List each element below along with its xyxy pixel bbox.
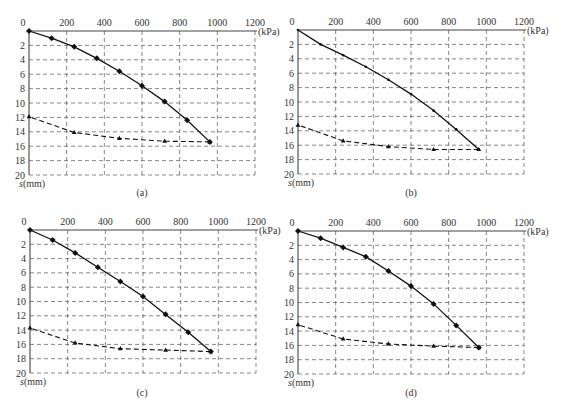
x-tick-label: 800 bbox=[172, 17, 187, 28]
y-tick-label: 10 bbox=[15, 98, 25, 109]
x-axis-unit: (kPa) bbox=[527, 25, 549, 37]
triangle-marker bbox=[27, 114, 32, 118]
y-tick-label: 18 bbox=[16, 353, 26, 364]
point-marker bbox=[432, 109, 435, 112]
y-tick-label: 8 bbox=[289, 283, 294, 294]
panel-d: 0200400600800100012002468101214161820(kP… bbox=[284, 217, 549, 399]
y-tick-label: 2 bbox=[20, 40, 25, 51]
triangle-marker bbox=[28, 325, 33, 329]
diamond-marker bbox=[363, 254, 369, 260]
x-tick-label: 0 bbox=[290, 217, 295, 228]
x-tick-label: 800 bbox=[173, 216, 188, 227]
triangle-marker bbox=[296, 322, 301, 326]
x-tick-label: 200 bbox=[60, 216, 75, 227]
diamond-marker bbox=[295, 228, 301, 234]
x-tick-label: 400 bbox=[98, 216, 113, 227]
x-axis-unit: (kPa) bbox=[259, 225, 281, 237]
x-axis-unit: (kPa) bbox=[258, 26, 280, 38]
diamond-marker bbox=[116, 68, 122, 74]
y-tick-label: 10 bbox=[284, 297, 294, 308]
y-tick-label: 14 bbox=[15, 126, 25, 137]
x-tick-label: 0 bbox=[21, 17, 26, 28]
x-tick-label: 400 bbox=[366, 217, 381, 228]
point-marker bbox=[455, 128, 458, 131]
point-marker bbox=[387, 78, 390, 81]
x-tick-label: 800 bbox=[441, 16, 456, 27]
y-tick-label: 18 bbox=[284, 154, 294, 165]
grid bbox=[30, 230, 256, 373]
x-tick-label: 0 bbox=[22, 216, 27, 227]
figure-canvas: 0200400600800100012002468101214161820(kP… bbox=[0, 0, 571, 410]
x-tick-label: 1000 bbox=[208, 216, 228, 227]
x-tick-label: 1000 bbox=[476, 217, 496, 228]
y-axis-unit: s(mm) bbox=[19, 178, 45, 190]
y-tick-label: 8 bbox=[20, 83, 25, 94]
point-marker bbox=[410, 93, 413, 96]
triangle-marker bbox=[296, 122, 301, 126]
panel-a: 0200400600800100012002468101214161820(kP… bbox=[15, 17, 280, 199]
x-tick-label: 1000 bbox=[207, 17, 227, 28]
y-tick-label: 10 bbox=[284, 97, 294, 108]
y-tick-label: 14 bbox=[284, 125, 294, 136]
y-tick-label: 4 bbox=[21, 253, 26, 264]
y-tick-label: 18 bbox=[15, 155, 25, 166]
x-tick-label: 1000 bbox=[476, 16, 496, 27]
x-axis-unit: (kPa) bbox=[527, 226, 549, 238]
y-tick-label: 2 bbox=[21, 239, 26, 250]
x-tick-label: 200 bbox=[328, 217, 343, 228]
panel-caption: (a) bbox=[136, 187, 147, 199]
x-tick-label: 200 bbox=[59, 17, 74, 28]
x-tick-label: 600 bbox=[136, 216, 151, 227]
series-loading bbox=[27, 227, 214, 355]
y-tick-label: 4 bbox=[289, 254, 294, 265]
panel-c: 0200400600800100012002468101214161820(kP… bbox=[16, 216, 281, 399]
y-tick-label: 4 bbox=[289, 53, 294, 64]
y-axis-unit: s(mm) bbox=[288, 177, 314, 189]
y-tick-label: 6 bbox=[20, 69, 25, 80]
point-marker bbox=[319, 43, 322, 46]
y-tick-label: 6 bbox=[289, 68, 294, 79]
y-axis-unit: s(mm) bbox=[288, 377, 314, 389]
triangle-marker bbox=[162, 139, 167, 143]
y-tick-label: 4 bbox=[20, 54, 25, 65]
y-tick-label: 2 bbox=[289, 39, 294, 50]
y-tick-label: 12 bbox=[16, 310, 26, 321]
y-tick-label: 8 bbox=[21, 282, 26, 293]
x-tick-label: 200 bbox=[328, 16, 343, 27]
y-tick-label: 6 bbox=[21, 267, 26, 278]
series-loading bbox=[297, 29, 480, 151]
y-tick-label: 12 bbox=[284, 311, 294, 322]
y-tick-label: 6 bbox=[289, 268, 294, 279]
y-axis-unit: s(mm) bbox=[20, 376, 46, 388]
grid bbox=[29, 31, 255, 175]
y-tick-label: 2 bbox=[289, 240, 294, 251]
y-tick-label: 14 bbox=[284, 326, 294, 337]
series-loading bbox=[295, 228, 482, 351]
panel-caption: (c) bbox=[136, 387, 147, 399]
y-tick-label: 16 bbox=[15, 141, 25, 152]
y-tick-label: 14 bbox=[16, 325, 26, 336]
panel-caption: (d) bbox=[405, 387, 417, 399]
x-tick-label: 400 bbox=[97, 17, 112, 28]
y-tick-label: 10 bbox=[16, 296, 26, 307]
diamond-marker bbox=[50, 237, 56, 243]
y-tick-label: 12 bbox=[15, 112, 25, 123]
point-marker bbox=[342, 54, 345, 57]
grid bbox=[298, 231, 524, 374]
diamond-marker bbox=[94, 55, 100, 61]
y-tick-label: 16 bbox=[284, 340, 294, 351]
x-tick-label: 400 bbox=[366, 16, 381, 27]
panel-b: 0200400600800100012002468101214161820(kP… bbox=[284, 16, 549, 199]
diamond-marker bbox=[318, 235, 324, 241]
y-tick-label: 8 bbox=[289, 82, 294, 93]
x-tick-label: 600 bbox=[404, 217, 419, 228]
x-tick-label: 800 bbox=[441, 217, 456, 228]
y-tick-label: 16 bbox=[16, 339, 26, 350]
y-tick-label: 18 bbox=[284, 354, 294, 365]
y-tick-label: 16 bbox=[284, 140, 294, 151]
x-tick-label: 600 bbox=[135, 17, 150, 28]
diamond-marker bbox=[49, 35, 55, 41]
x-tick-label: 0 bbox=[290, 16, 295, 27]
point-marker bbox=[297, 29, 300, 32]
diamond-marker bbox=[27, 227, 33, 233]
